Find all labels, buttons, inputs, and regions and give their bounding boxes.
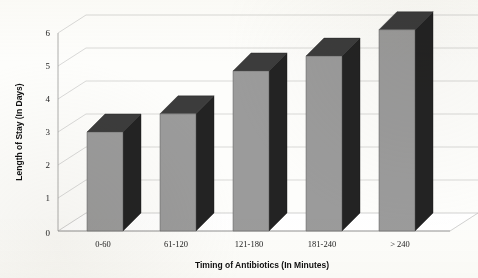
bar-group-0 (87, 114, 141, 231)
x-label-2: 121-180 (235, 239, 263, 249)
x-label-0: 0-60 (95, 239, 111, 249)
chart-canvas: 0 1 2 3 4 5 6 (0, 0, 478, 278)
y-tick-4: 4 (46, 94, 51, 104)
y-tick-1: 1 (46, 193, 51, 203)
y-tick-2: 2 (46, 160, 51, 170)
bar-group-2 (233, 53, 287, 231)
bar-group-3 (306, 38, 360, 231)
y-axis-title: Length of Stay (In Days) (14, 83, 24, 180)
x-axis-title: Timing of Antibiotics (In Minutes) (195, 260, 329, 270)
x-label-1: 61-120 (164, 239, 188, 249)
y-tick-3: 3 (46, 127, 51, 137)
y-tick-labels: 0 1 2 3 4 5 6 (46, 28, 51, 238)
x-label-4: > 240 (390, 239, 410, 249)
bar-group-4 (379, 12, 433, 231)
bar-chart-figure: 0 1 2 3 4 5 6 (0, 0, 478, 278)
y-tick-0: 0 (46, 228, 51, 238)
x-label-3: 181-240 (308, 239, 336, 249)
y-tick-6: 6 (46, 28, 51, 38)
x-category-labels: 0-60 61-120 121-180 181-240 > 240 (95, 239, 410, 249)
y-tick-5: 5 (46, 61, 51, 71)
bar-group-1 (160, 96, 214, 231)
